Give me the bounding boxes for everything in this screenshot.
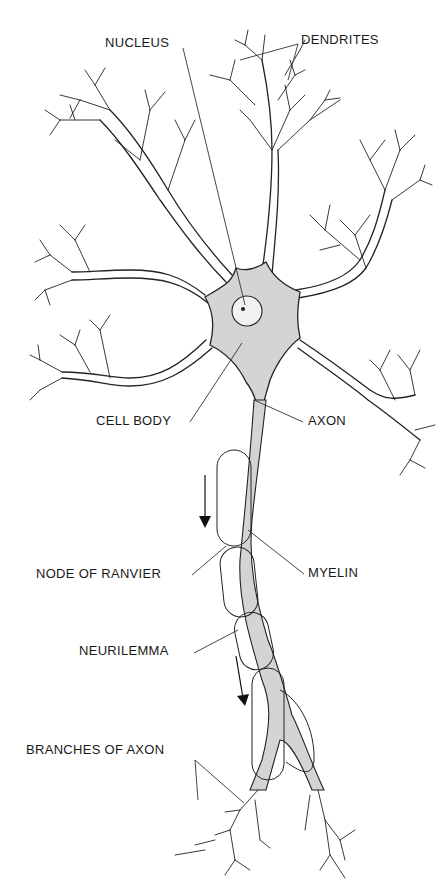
cell-body-shape xyxy=(205,262,300,420)
label-dendrites: DENDRITES xyxy=(301,32,379,47)
impulse-arrow-1 xyxy=(199,475,211,528)
label-node-of-ranvier: NODE OF RANVIER xyxy=(36,566,161,581)
leader-lines xyxy=(183,44,304,803)
label-neurilemma: NEURILEMMA xyxy=(79,643,169,658)
axon-terminals xyxy=(175,790,355,878)
label-nucleus: NUCLEUS xyxy=(105,35,169,50)
label-branches-of-axon: BRANCHES OF AXON xyxy=(26,742,164,757)
label-cell-body: CELL BODY xyxy=(96,413,171,428)
neuron-diagram xyxy=(0,0,437,891)
nucleus-shape xyxy=(232,296,262,326)
nucleolus-shape xyxy=(241,307,245,311)
label-myelin: MYELIN xyxy=(308,565,358,580)
label-axon: AXON xyxy=(308,413,346,428)
impulse-arrow-2 xyxy=(236,656,249,706)
